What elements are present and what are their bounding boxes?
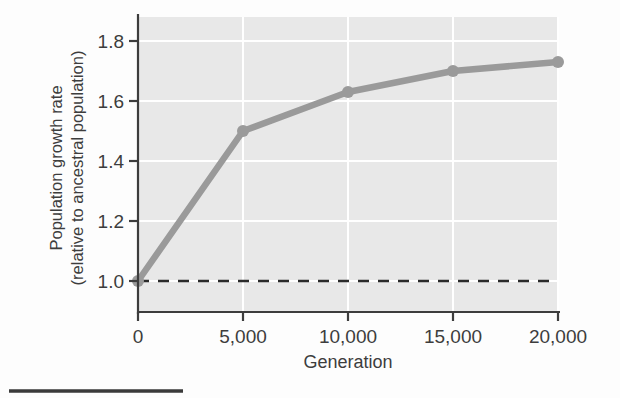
figure-canvas: 1.01.21.41.61.8 05,00010,00015,00020,000… [0, 0, 620, 398]
x-axis-tick-label: 5,000 [219, 326, 267, 347]
y-axis-tick-label: 1.0 [98, 271, 124, 292]
x-axis-tick-labels: 05,00010,00015,00020,000 [133, 326, 587, 347]
x-axis-title: Generation [303, 352, 392, 372]
y-axis-tick-label: 1.2 [98, 211, 124, 232]
population-growth-line-chart: 1.01.21.41.61.8 05,00010,00015,00020,000… [0, 0, 620, 398]
y-axis-tick-label: 1.6 [98, 91, 124, 112]
data-point-marker [552, 56, 564, 68]
y-axis-title-line-1: Population growth rate [47, 85, 65, 250]
y-axis-tick-labels: 1.01.21.41.61.8 [98, 31, 125, 292]
x-axis-tick-label: 20,000 [529, 326, 587, 347]
x-axis-tick-label: 10,000 [319, 326, 377, 347]
x-axis-tick-label: 15,000 [424, 326, 482, 347]
data-point-marker [342, 86, 354, 98]
y-axis-title-line-2: (relative to ancestral population) [68, 51, 86, 286]
y-axis-ticks [129, 41, 138, 281]
x-axis-ticks [138, 312, 558, 321]
x-axis-tick-label: 0 [133, 326, 144, 347]
y-axis-tick-label: 1.4 [98, 151, 125, 172]
y-axis-tick-label: 1.8 [98, 31, 124, 52]
data-point-marker [237, 125, 249, 137]
data-point-marker [447, 65, 459, 77]
